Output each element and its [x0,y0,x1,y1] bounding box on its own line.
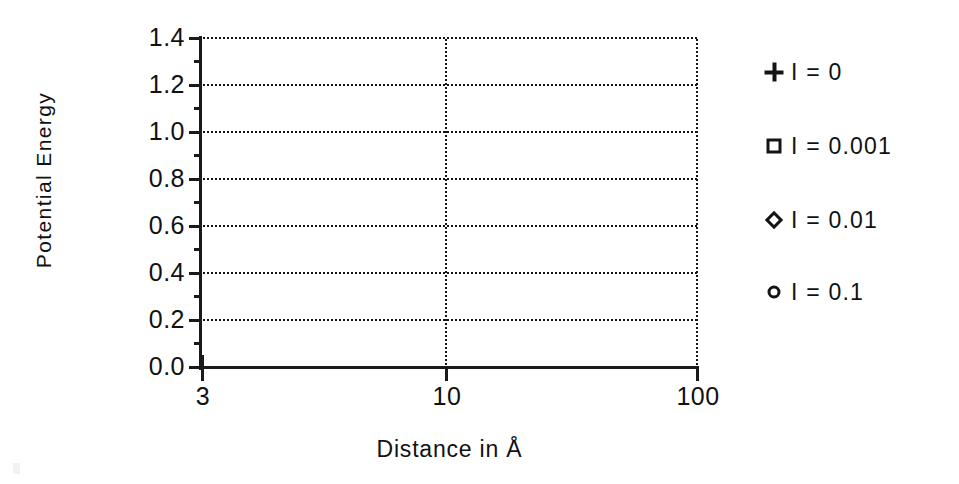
scan-artifact [13,463,20,474]
y-axis-title: Potential Energy [32,50,56,310]
y-tick-label: 0.4 [115,260,185,285]
y-tick-label: 0.8 [115,166,185,191]
x-tick [201,368,204,381]
plot-border-right [696,38,698,369]
y-tick-label: 1.4 [115,25,185,50]
gridline-horizontal [202,225,698,227]
gridline-horizontal [202,319,698,321]
legend-label: I = 0 [791,59,842,85]
square-marker-icon [757,130,791,162]
y-tick-major [189,319,202,322]
legend-entry: I = 0.001 [757,130,892,162]
legend-entry: I = 0.1 [757,276,864,308]
y-tick-minor [194,60,202,63]
y-tick-major [189,84,202,87]
x-tick [696,368,699,381]
y-tick-minor [194,154,202,157]
chart-figure: 1.4 1.2 1.0 0.8 0.6 0.4 0.2 0.0 3 10 100… [0,0,959,484]
y-tick-label: 0.2 [115,307,185,332]
diamond-marker-icon [757,204,791,236]
gridline-horizontal [202,272,698,274]
y-tick-major [189,272,202,275]
y-tick-minor [194,201,202,204]
y-tick-label: 1.0 [115,119,185,144]
x-tick [445,368,448,381]
y-tick-major [189,37,202,40]
y-tick-minor [194,342,202,345]
y-tick-major [189,131,202,134]
y-tick-label: 0.6 [115,213,185,238]
legend-label: I = 0.1 [791,279,864,305]
y-tick-label: 1.2 [115,72,185,97]
x-axis-line [200,366,699,369]
y-tick-minor [194,107,202,110]
circle-marker-icon [757,276,791,308]
y-tick-label: 0.0 [115,354,185,379]
y-tick-major [189,225,202,228]
gridline-vertical [445,38,447,369]
y-tick-minor [194,295,202,298]
x-tick-label: 100 [638,383,758,410]
x-tick-label: 3 [143,383,263,410]
legend-label: I = 0.01 [791,207,878,233]
x-axis-title: Distance in Å [202,436,697,462]
gridline-horizontal [202,131,698,133]
legend-entry: I = 0 [757,56,842,88]
plot-border-top [202,37,698,39]
legend-entry: I = 0.01 [757,204,878,236]
gridline-horizontal [202,84,698,86]
legend-label: I = 0.001 [791,133,892,159]
x-tick-label: 10 [387,383,507,410]
y-tick-minor [194,248,202,251]
plus-marker-icon [757,56,791,88]
gridline-horizontal [202,178,698,180]
y-tick-major [189,178,202,181]
x-tick-origin-up [201,355,204,368]
